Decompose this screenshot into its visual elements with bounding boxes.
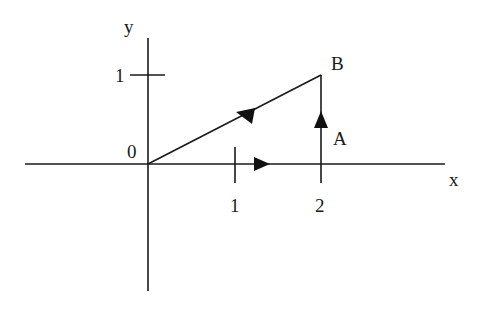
arrow-right-icon <box>254 157 270 171</box>
point-a-label: A <box>333 128 347 149</box>
point-b-label: B <box>331 53 344 74</box>
arrow-up-icon <box>314 111 328 128</box>
y-tick-label-1: 1 <box>115 65 125 86</box>
x-tick-label-1: 1 <box>230 195 240 216</box>
x-tick-label-2: 2 <box>315 195 325 216</box>
y-axis-label: y <box>124 16 134 37</box>
x-axis-label: x <box>449 169 459 190</box>
origin-label: 0 <box>127 141 137 162</box>
coordinate-diagram: y x 0 1 1 2 B A <box>0 0 478 311</box>
arrow-diagonal-icon <box>236 108 255 124</box>
